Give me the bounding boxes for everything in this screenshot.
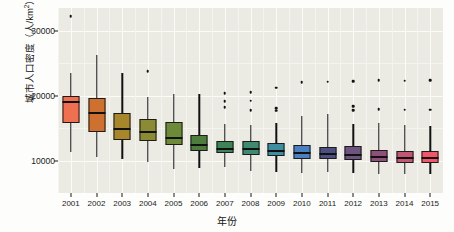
x-axis-tick-mark bbox=[327, 193, 328, 197]
x-axis-tick-mark bbox=[301, 193, 302, 197]
y-axis-title: 城市人口密度（人/km2） bbox=[22, 0, 36, 124]
x-axis-tick-label-2001: 2001 bbox=[62, 199, 80, 208]
y-axis-tick-label: 20000 bbox=[31, 91, 55, 101]
x-axis-tick-label-2010: 2010 bbox=[293, 199, 311, 208]
chart-root: 城市人口密度（人/km2） 年份 10000200003000020012002… bbox=[0, 0, 454, 232]
x-axis-tick-label-2002: 2002 bbox=[88, 199, 106, 208]
x-axis-tick-mark bbox=[147, 193, 148, 197]
median-line bbox=[422, 157, 439, 159]
x-axis-tick-mark bbox=[353, 193, 354, 197]
x-axis-tick-mark bbox=[122, 193, 123, 197]
x-axis-tick-label-2005: 2005 bbox=[165, 199, 183, 208]
whisker-upper bbox=[429, 126, 430, 152]
y-axis-title-tail: ） bbox=[24, 0, 35, 5]
y-axis-tick-label: 10000 bbox=[31, 156, 55, 166]
x-axis-tick-mark bbox=[250, 193, 251, 197]
y-axis-tick-mark bbox=[54, 95, 58, 96]
boxplot-2015 bbox=[58, 8, 443, 193]
x-axis-tick-mark bbox=[404, 193, 405, 197]
x-axis-tick-label-2004: 2004 bbox=[139, 199, 157, 208]
outlier-point bbox=[429, 108, 432, 111]
y-axis-title-superscript: 2 bbox=[23, 5, 30, 9]
plot-panel bbox=[58, 8, 443, 193]
x-axis-tick-mark bbox=[199, 193, 200, 197]
x-axis-tick-label-2008: 2008 bbox=[242, 199, 260, 208]
y-axis-title-main: 城市人口密度（人/km bbox=[24, 8, 35, 103]
x-axis-tick-mark bbox=[378, 193, 379, 197]
y-axis-tick-mark bbox=[54, 160, 58, 161]
x-axis-tick-label-2011: 2011 bbox=[319, 199, 336, 208]
outlier-point bbox=[429, 79, 432, 82]
y-axis-tick-mark bbox=[54, 30, 58, 31]
x-axis-tick-mark bbox=[430, 193, 431, 197]
x-axis-tick-label-2007: 2007 bbox=[216, 199, 234, 208]
x-axis-tick-label-2012: 2012 bbox=[344, 199, 362, 208]
x-axis-tick-label-2014: 2014 bbox=[396, 199, 414, 208]
x-axis-tick-label-2006: 2006 bbox=[190, 199, 208, 208]
x-axis-tick-mark bbox=[173, 193, 174, 197]
x-axis-tick-mark bbox=[224, 193, 225, 197]
whisker-lower bbox=[429, 163, 430, 174]
x-axis-tick-mark bbox=[70, 193, 71, 197]
y-axis-tick-label: 30000 bbox=[31, 26, 55, 36]
x-axis-tick-mark bbox=[276, 193, 277, 197]
x-axis-tick-label-2013: 2013 bbox=[370, 199, 388, 208]
x-axis-tick-label-2003: 2003 bbox=[113, 199, 131, 208]
x-axis-tick-mark bbox=[96, 193, 97, 197]
x-axis-title: 年份 bbox=[0, 213, 454, 228]
x-axis-tick-label-2009: 2009 bbox=[267, 199, 285, 208]
x-axis-tick-label-2015: 2015 bbox=[421, 199, 439, 208]
